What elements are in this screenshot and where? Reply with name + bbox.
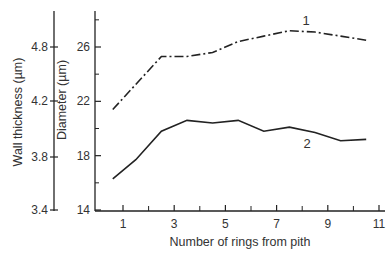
series-1-line [113, 31, 366, 110]
series-1-label: 1 [302, 13, 309, 28]
x-tick-label: 1 [120, 217, 127, 231]
x-tick-label: 9 [324, 217, 331, 231]
diameter-axis-title: Diameter (µm) [55, 60, 69, 140]
series-2-label: 2 [303, 136, 310, 151]
wall-thickness-tick-label: 4.8 [31, 40, 48, 54]
wall-thickness-axis: 3.43.84.24.8 Wall thickness (µm) [11, 11, 58, 217]
series-2-line [113, 120, 366, 178]
x-axis: 1357911 Number of rings from pith [95, 205, 386, 249]
wall-thickness-tick-label: 3.8 [31, 150, 48, 164]
diameter-tick-label: 18 [77, 149, 91, 163]
diameter-tick-label: 26 [77, 40, 91, 54]
wall-thickness-tick-label: 3.4 [31, 203, 48, 217]
wall-thickness-tick-label: 4.2 [31, 94, 48, 108]
diameter-tick-label: 22 [77, 94, 91, 108]
diameter-tick-label: 14 [77, 203, 91, 217]
x-tick-label: 3 [171, 217, 178, 231]
x-tick-label: 7 [273, 217, 280, 231]
wall-thickness-axis-title: Wall thickness (µm) [11, 58, 25, 167]
x-axis-title: Number of rings from pith [169, 235, 310, 249]
x-tick-label: 11 [373, 217, 386, 231]
chart: 3.43.84.24.8 Wall thickness (µm) 1418222… [0, 0, 389, 253]
diameter-axis: 14182226 Diameter (µm) [55, 11, 101, 217]
x-tick-label: 5 [222, 217, 229, 231]
